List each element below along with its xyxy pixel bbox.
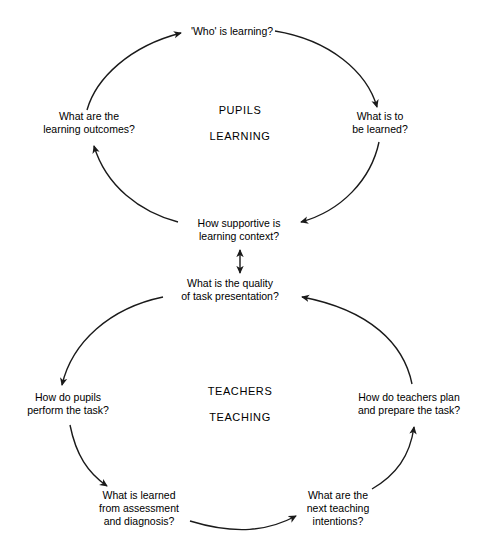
arc-what-learned-to-context xyxy=(301,142,379,222)
node-what-is-the-quality-of-task-presentation-line-1: What is the quality xyxy=(181,277,278,290)
cycle-diagram: PUPILS LEARNING 'Who' is learning? What … xyxy=(0,0,481,552)
node-what-are-the-learning-outcomes-line-2: learning outcomes? xyxy=(43,123,135,136)
node-what-is-to-be-learned-line-2: be learned? xyxy=(352,123,407,136)
node-how-do-teachers-plan-and-prepare-the-task[interactable]: How do teachers plan and prepare the tas… xyxy=(358,391,460,417)
arc-intentions-to-plan xyxy=(372,427,414,489)
node-how-do-pupils-perform-the-task[interactable]: How do pupils perform the task? xyxy=(27,391,109,417)
node-how-supportive-is-learning-context-line-2: learning context? xyxy=(198,230,281,243)
node-what-is-learned-from-assessment-and-diagnosis-line-2: from assessment xyxy=(99,502,179,515)
node-what-is-to-be-learned[interactable]: What is to be learned? xyxy=(352,110,407,136)
node-what-is-the-quality-of-task-presentation[interactable]: What is the quality of task presentation… xyxy=(181,277,278,303)
arc-plan-to-quality xyxy=(302,297,412,384)
node-how-do-teachers-plan-and-prepare-the-task-line-2: and prepare the task? xyxy=(358,404,460,417)
node-how-do-pupils-perform-the-task-line-1: How do pupils xyxy=(27,391,109,404)
node-what-are-the-next-teaching-intentions-line-1: What are the xyxy=(307,489,369,502)
node-what-is-learned-from-assessment-and-diagnosis-line-1: What is learned xyxy=(99,489,179,502)
node-how-do-teachers-plan-and-prepare-the-task-line-1: How do teachers plan xyxy=(358,391,460,404)
node-what-are-the-learning-outcomes-line-1: What are the xyxy=(43,110,135,123)
cycle-title-line-2: LEARNING xyxy=(209,123,270,149)
arc-context-to-outcomes xyxy=(94,146,178,222)
cycle-title-teachers-line-1: TEACHERS xyxy=(208,378,273,404)
node-what-is-the-quality-of-task-presentation-line-2: of task presentation? xyxy=(181,290,278,303)
arc-perform-to-assessment xyxy=(70,425,107,486)
arc-assessment-to-intentions xyxy=(190,516,296,530)
cycle-title-pupils-learning: PUPILS LEARNING xyxy=(209,97,270,149)
arc-quality-to-perform xyxy=(62,297,163,385)
node-how-supportive-is-learning-context[interactable]: How supportive is learning context? xyxy=(198,217,281,243)
node-what-is-learned-from-assessment-and-diagnosis[interactable]: What is learned from assessment and diag… xyxy=(99,489,179,528)
node-what-is-learned-from-assessment-and-diagnosis-line-3: and diagnosis? xyxy=(99,515,179,528)
cycle-title-teachers-line-2: TEACHING xyxy=(208,404,273,430)
arc-who-to-what-learned xyxy=(275,31,377,107)
cycle-title-line-1: PUPILS xyxy=(209,97,270,123)
arc-outcomes-to-who xyxy=(87,33,181,110)
node-what-is-to-be-learned-line-1: What is to xyxy=(352,110,407,123)
node-what-are-the-next-teaching-intentions[interactable]: What are the next teaching intentions? xyxy=(307,489,369,528)
arc-layer xyxy=(0,0,481,552)
node-what-are-the-next-teaching-intentions-line-3: intentions? xyxy=(307,515,369,528)
node-how-do-pupils-perform-the-task-line-2: perform the task? xyxy=(27,404,109,417)
node-what-are-the-next-teaching-intentions-line-2: next teaching xyxy=(307,502,369,515)
cycle-title-teachers-teaching: TEACHERS TEACHING xyxy=(208,378,273,430)
node-who-is-learning[interactable]: 'Who' is learning? xyxy=(191,25,273,38)
node-how-supportive-is-learning-context-line-1: How supportive is xyxy=(198,217,281,230)
node-who-is-learning-line-1: 'Who' is learning? xyxy=(191,25,273,38)
node-what-are-the-learning-outcomes[interactable]: What are the learning outcomes? xyxy=(43,110,135,136)
